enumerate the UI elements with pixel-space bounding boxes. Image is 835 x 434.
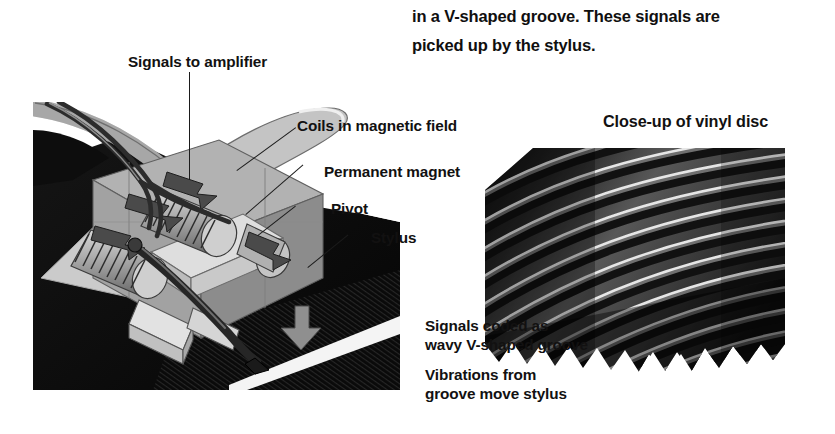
caption-signals-coded: Signals coded as wavy V-shaped groove: [425, 316, 588, 354]
label-permanent-magnet: Permanent magnet: [324, 163, 460, 181]
vinyl-body: [485, 148, 785, 396]
vinyl-closeup-illustration: [485, 148, 785, 396]
label-signals-to-amplifier: Signals to amplifier: [128, 53, 267, 71]
cartridge-illustration: [33, 102, 400, 390]
cantilever-pivot-end: [128, 238, 142, 252]
label-pivot: Pivot: [331, 200, 368, 218]
leader-signals: [189, 72, 190, 180]
label-stylus: Stylus: [371, 229, 416, 247]
label-coils-in-magnetic-field: Coils in magnetic field: [297, 117, 457, 135]
body-paragraph: in a V-shaped groove. These signals are …: [412, 2, 832, 60]
vinyl-svg: [485, 148, 785, 396]
title-closeup-of-vinyl-disc: Close-up of vinyl disc: [603, 112, 768, 131]
paragraph-line-1: in a V-shaped groove. These signals are: [412, 2, 832, 31]
caption-vibrations: Vibrations from groove move stylus: [425, 365, 567, 403]
diagram-page: in a V-shaped groove. These signals are …: [0, 0, 835, 434]
cartridge-svg: [33, 102, 400, 390]
paragraph-line-2: picked up by the stylus.: [412, 31, 832, 60]
